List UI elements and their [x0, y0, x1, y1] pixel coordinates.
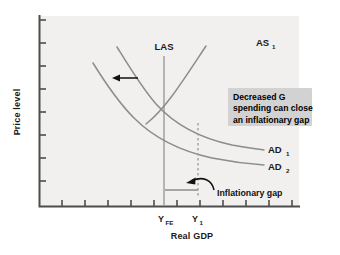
callout-line-2: spending can close: [233, 103, 313, 113]
y-fe-tick-subscript: FE: [166, 219, 174, 226]
ad1-label-subscript: 1: [286, 150, 290, 157]
chart-svg: Price level Real GDP LAS AS 1 AD 1 AD 2 …: [0, 0, 340, 255]
ad2-label: AD: [268, 161, 282, 172]
inflationary-gap-label: Inflationary gap: [217, 188, 283, 198]
y1-tick-label-group: Y 1: [192, 214, 204, 226]
ad1-label: AD: [268, 144, 282, 155]
y1-tick-label: Y: [192, 214, 198, 224]
y-fe-tick-label-group: Y FE: [158, 214, 173, 226]
ad-as-inflationary-gap-figure: Price level Real GDP LAS AS 1 AD 1 AD 2 …: [0, 0, 340, 255]
as1-label-subscript: 1: [272, 43, 276, 50]
y-axis-label: Price level: [12, 89, 22, 136]
ad2-label-subscript: 2: [286, 167, 290, 174]
y1-tick-subscript: 1: [200, 219, 204, 226]
las-label: LAS: [155, 41, 174, 52]
y-fe-tick-label: Y: [158, 214, 164, 224]
callout-line-1: Decreased G: [233, 92, 286, 102]
callout-line-3: an inflationary gap: [233, 115, 309, 125]
as1-label: AS: [256, 37, 269, 48]
x-axis-label: Real GDP: [171, 231, 214, 241]
